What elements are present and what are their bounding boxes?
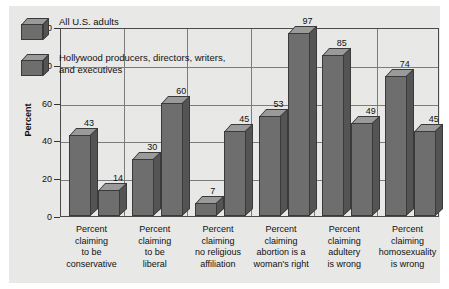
y-tick-mark-40 [54, 141, 60, 142]
category-label-1: Percent claiming to be liberal [119, 224, 190, 271]
y-tick-mark-0 [54, 217, 60, 218]
y-tick-label-0: 0 [12, 212, 52, 222]
bar-front-face [195, 203, 217, 216]
bar-front-face [224, 131, 246, 216]
bar-group3-series1 [288, 33, 310, 216]
bar-side-face [153, 152, 161, 216]
category-label-4: Percent claiming adultery is wrong [309, 224, 380, 271]
category-label-0: Percent claiming to be conservative [56, 224, 127, 271]
bar-value-label-group5-series1: 45 [429, 115, 439, 124]
bar-group4-series0 [322, 55, 344, 216]
bar-front-face [161, 103, 183, 216]
bar-group5-series0 [385, 76, 407, 216]
bar-side-face [372, 116, 380, 216]
bar-side-face [182, 95, 190, 216]
bar-value-label-group3-series0: 53 [274, 100, 284, 109]
bar-value-label-group5-series0: 74 [400, 60, 410, 69]
bar-front-face [414, 131, 436, 216]
bar-value-label-group3-series1: 97 [303, 17, 313, 26]
bar-side-face [435, 124, 443, 216]
bar-value-label-group1-series1: 60 [176, 87, 186, 96]
bar-group0-series1 [98, 190, 120, 216]
bar-group0-series0 [69, 135, 91, 216]
bar-group2-series1 [224, 131, 246, 216]
bar-side-face [245, 124, 253, 216]
bar-group2-series0 [195, 203, 217, 216]
bar-front-face [322, 55, 344, 216]
legend-cube-icon [21, 18, 49, 40]
chart-panel: 43143060745539785497445 100806040200 Per… [9, 6, 440, 283]
category-label-2: Percent claiming no religious affiliatio… [182, 224, 253, 271]
bar-front-face [69, 135, 91, 216]
bar-side-face [406, 69, 414, 216]
bar-group5-series1 [414, 131, 436, 216]
bar-value-label-group1-series0: 30 [147, 143, 157, 152]
bar-value-label-group4-series1: 49 [366, 107, 376, 116]
bar-front-face [351, 123, 373, 216]
y-axis-title: Percent [23, 103, 33, 136]
cube-front-face [21, 24, 43, 40]
y-tick-label-40: 40 [12, 136, 52, 146]
legend-item-label: Hollywood producers, directors, writers,… [59, 48, 231, 76]
bar-value-label-group2-series1: 45 [239, 115, 249, 124]
y-tick-label-20: 20 [12, 174, 52, 184]
bar-group3-series0 [259, 116, 281, 216]
category-label-5: Percent claiming homosexuality is wrong [372, 224, 443, 271]
bar-side-face [280, 109, 288, 216]
bar-value-label-group2-series0: 7 [210, 187, 215, 196]
bar-group4-series1 [351, 123, 373, 216]
bar-front-face [259, 116, 281, 216]
bar-side-face [309, 25, 317, 216]
bar-side-face [90, 128, 98, 216]
y-tick-mark-60 [54, 104, 60, 105]
bar-front-face [98, 190, 120, 216]
cube-side-face [43, 19, 49, 40]
bar-value-label-group0-series0: 43 [84, 119, 94, 128]
legend-item-0: All U.S. adults [21, 12, 231, 40]
bar-group1-series0 [132, 159, 154, 216]
bar-front-face [385, 76, 407, 216]
bar-value-label-group0-series1: 14 [113, 174, 123, 183]
cube-front-face [21, 60, 43, 76]
bar-side-face [119, 182, 127, 216]
bar-front-face [288, 33, 310, 216]
bar-value-label-group4-series0: 85 [337, 39, 347, 48]
legend-item-label: All U.S. adults [59, 12, 119, 28]
y-tick-mark-20 [54, 179, 60, 180]
category-label-3: Percent claiming abortion is a woman's r… [246, 224, 317, 271]
figure-container: 43143060745539785497445 100806040200 Per… [0, 0, 449, 289]
legend-cube-icon [21, 54, 49, 76]
legend-item-1: Hollywood producers, directors, writers,… [21, 48, 231, 76]
bar-group1-series1 [161, 103, 183, 216]
bar-side-face [343, 48, 351, 216]
chart-legend: All U.S. adults Hollywood producers, dir… [21, 12, 231, 84]
cube-side-face [43, 55, 49, 76]
bar-front-face [132, 159, 154, 216]
gridline-60 [61, 105, 438, 106]
